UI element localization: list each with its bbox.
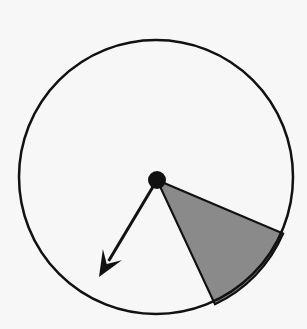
diagram-svg xyxy=(0,0,307,329)
background-rect xyxy=(0,0,307,329)
center-pivot-dot xyxy=(148,171,166,189)
figure-canvas xyxy=(0,0,307,329)
